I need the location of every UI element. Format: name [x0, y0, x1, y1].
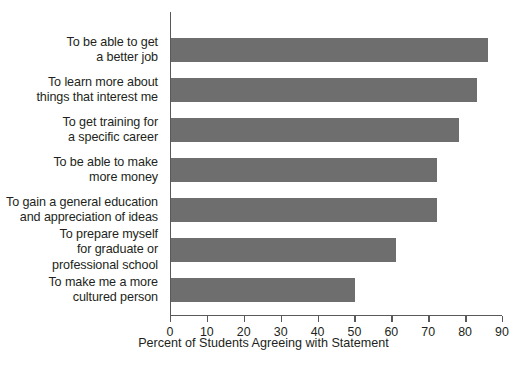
bar	[171, 118, 459, 142]
category-axis-labels: To be able to get a better jobTo learn m…	[0, 0, 164, 315]
bar	[171, 278, 355, 302]
x-tick	[281, 316, 282, 322]
category-label: To be able to make more money	[53, 155, 158, 185]
category-label: To prepare myself for graduate or profes…	[52, 227, 158, 273]
x-tick	[318, 316, 319, 322]
x-tick	[465, 316, 466, 322]
category-label: To get training for a specific career	[63, 115, 158, 145]
x-tick	[207, 316, 208, 322]
x-tick	[428, 316, 429, 322]
x-tick	[170, 316, 171, 322]
bar	[171, 38, 488, 62]
x-tick	[391, 316, 392, 322]
category-label: To gain a general education and apprecia…	[6, 195, 158, 225]
x-tick	[502, 316, 503, 322]
bar	[171, 158, 437, 182]
bar-chart: To be able to get a better jobTo learn m…	[0, 0, 527, 373]
plot-area: 0102030405060708090	[170, 12, 515, 315]
category-label: To be able to get a better job	[67, 35, 158, 65]
x-axis-title: Percent of Students Agreeing with Statem…	[0, 336, 527, 350]
bar	[171, 238, 396, 262]
x-tick	[354, 316, 355, 322]
category-label: To learn more about things that interest…	[36, 75, 158, 105]
bar	[171, 198, 437, 222]
bar	[171, 78, 477, 102]
x-tick	[244, 316, 245, 322]
category-label: To make me a more cultured person	[48, 275, 158, 305]
x-axis-line	[170, 315, 502, 316]
